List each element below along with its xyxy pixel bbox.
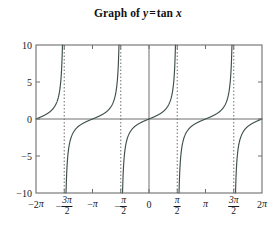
y-axis-tick-label: 0: [27, 114, 32, 125]
y-axis-tick-label: −10: [16, 188, 32, 199]
x-axis-tick-label: π2: [174, 196, 181, 217]
y-axis-tick-label: 10: [22, 40, 32, 51]
x-axis-tick-label: −2π: [28, 199, 44, 210]
x-axis-tick-label: −3π2: [56, 196, 73, 217]
tangent-graph-figure: Graph of y=tan x 1050−5−10 −2π−3π2−π−π20…: [0, 0, 276, 228]
x-axis-tick-label: 0: [147, 199, 152, 210]
y-axis-tick-label: 5: [27, 77, 32, 88]
x-axis-tick-label: −π: [87, 199, 98, 210]
plot-area: [0, 0, 276, 228]
x-axis-tick-label: π: [203, 199, 208, 209]
y-axis-tick-label: −5: [21, 151, 32, 162]
x-axis-tick-label: 2π: [257, 199, 267, 210]
x-axis-tick-label: −π2: [115, 196, 127, 217]
tan-curve-branch: [36, 45, 63, 119]
x-axis-tick-label: 3π2: [228, 196, 240, 217]
tan-curve-branch: [235, 119, 262, 193]
